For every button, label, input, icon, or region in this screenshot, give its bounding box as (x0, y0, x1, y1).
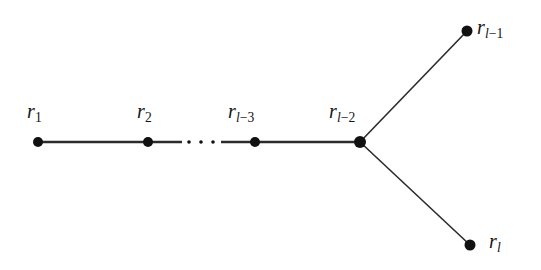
label-subscript: l−1 (485, 26, 503, 41)
label-base-symbol: r (27, 100, 35, 122)
graph-canvas (0, 0, 541, 270)
graph-edge (360, 142, 470, 245)
ellipsis-dot (187, 140, 191, 144)
label-subscript: 1 (35, 110, 42, 125)
ellipsis-dots (187, 140, 215, 144)
node-label-r2: r2 (137, 101, 152, 121)
graph-node-rl-1 (462, 26, 473, 37)
label-base-symbol: r (477, 16, 485, 38)
dynkin-diagram-figure: r1r2rl−3rl−2rl−1rl (0, 0, 541, 270)
label-subscript: l (497, 240, 501, 255)
node-label-r1: r1 (27, 101, 42, 121)
label-subscript: 2 (145, 110, 152, 125)
label-base-symbol: r (489, 230, 497, 252)
node-label-rl-2: rl−2 (329, 101, 355, 121)
graph-node-rl-2 (354, 136, 366, 148)
label-subscript: l−2 (337, 110, 355, 125)
node-label-rl: rl (489, 231, 501, 251)
graph-node-r2 (143, 137, 153, 147)
graph-node-rl (465, 240, 476, 251)
label-base-symbol: r (329, 100, 337, 122)
graph-edge (360, 31, 467, 142)
ellipsis-dot (199, 140, 203, 144)
graph-node-r1 (33, 137, 43, 147)
graph-node-rl-3 (250, 137, 260, 147)
label-base-symbol: r (228, 100, 236, 122)
node-label-rl-1: rl−1 (477, 17, 503, 37)
label-subscript: l−3 (236, 110, 254, 125)
ellipsis-dot (211, 140, 215, 144)
nodes-group (33, 26, 476, 251)
label-base-symbol: r (137, 100, 145, 122)
node-label-rl-3: rl−3 (228, 101, 254, 121)
